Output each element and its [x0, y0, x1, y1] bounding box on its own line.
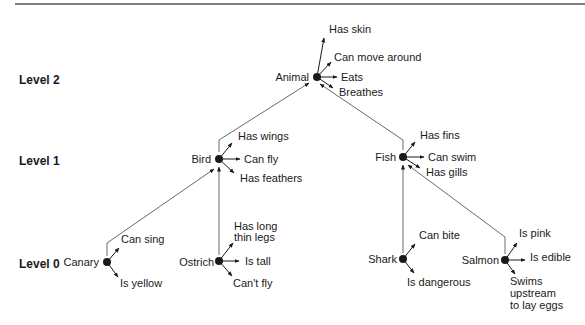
- property-has-fins: Has fins: [420, 129, 460, 141]
- property-can-move-around: Can move around: [334, 51, 421, 63]
- node-label-bird: Bird: [191, 153, 211, 165]
- property-has-long-thin-legs-2: thin legs: [234, 231, 275, 243]
- property-can-sing: Can sing: [121, 233, 164, 245]
- property-is-edible: Is edible: [530, 251, 571, 263]
- node-fish: [399, 153, 407, 161]
- level-0-label: Level 0: [19, 257, 60, 271]
- node-salmon: [501, 256, 509, 264]
- property-cant-fly: Can't fly: [233, 277, 273, 289]
- node-bird: [215, 155, 223, 163]
- node-animal: [313, 73, 321, 81]
- level-1-label: Level 1: [19, 154, 60, 168]
- property-is-dangerous: Is dangerous: [407, 276, 471, 288]
- level-2-label: Level 2: [19, 73, 60, 87]
- property-swims-upstream-3: to lay eggs: [510, 299, 564, 311]
- property-swims-upstream-1: Swims: [510, 275, 543, 287]
- property-can-swim: Can swim: [428, 151, 476, 163]
- property-is-tall: Is tall: [245, 255, 271, 267]
- property-is-yellow: Is yellow: [120, 277, 162, 289]
- semantic-network-diagram: Level 2 Level 1 Level 0: [0, 0, 585, 325]
- property-can-fly: Can fly: [244, 153, 279, 165]
- property-swims-upstream-2: upstream: [510, 287, 556, 299]
- property-breathes: Breathes: [339, 86, 384, 98]
- property-eats: Eats: [341, 71, 364, 83]
- node-label-fish: Fish: [375, 151, 396, 163]
- node-canary: [103, 258, 111, 266]
- property-has-wings: Has wings: [238, 130, 289, 142]
- node-label-ostrich: Ostrich: [179, 256, 214, 268]
- property-is-pink: Is pink: [519, 227, 551, 239]
- node-label-animal: Animal: [275, 71, 309, 83]
- property-has-feathers: Has feathers: [240, 172, 303, 184]
- node-label-canary: Canary: [64, 256, 100, 268]
- property-has-gills: Has gills: [426, 166, 468, 178]
- node-label-salmon: Salmon: [462, 254, 499, 266]
- node-shark: [399, 255, 407, 263]
- property-can-bite: Can bite: [419, 229, 460, 241]
- node-label-shark: Shark: [368, 253, 397, 265]
- node-ostrich: [215, 257, 223, 265]
- property-has-skin: Has skin: [329, 23, 371, 35]
